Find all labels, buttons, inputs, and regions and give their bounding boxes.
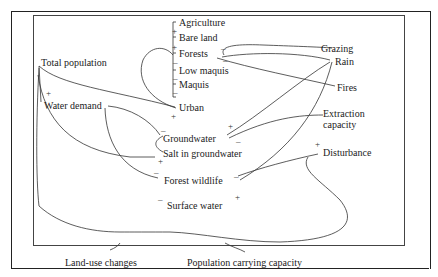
sign-minus: –: [154, 168, 159, 177]
sign-plus: +: [235, 193, 240, 202]
sign-minus: –: [173, 58, 178, 67]
node-salt-in-groundwater: Salt in groundwater: [163, 148, 242, 159]
sign-plus: +: [228, 122, 233, 131]
node-forests: Forests: [179, 48, 208, 59]
sign-minus: –: [161, 126, 166, 135]
sign-plus: +: [172, 27, 177, 36]
node-disturbance: Disturbance: [323, 147, 371, 158]
node-population-carrying-capacity: Population carrying capacity: [187, 257, 302, 268]
node-extraction-capacity-1: Extraction: [323, 108, 365, 119]
node-rain: Rain: [335, 56, 354, 67]
sign-minus: –: [234, 172, 239, 181]
sign-minus: –: [173, 88, 178, 97]
node-extraction-capacity-2: capacity: [323, 119, 356, 130]
sign-minus: –: [173, 74, 178, 83]
sign-plus: +: [315, 140, 320, 149]
node-agriculture: Agriculture: [179, 17, 225, 28]
sign-plus: +: [171, 112, 176, 121]
node-grazing: Grazing: [321, 43, 353, 54]
sign-minus: –: [223, 56, 228, 65]
node-bare-land: Bare land: [179, 32, 218, 43]
sign-minus: –: [158, 195, 163, 204]
connector-lines: [0, 0, 438, 277]
node-fires: Fires: [337, 82, 357, 93]
node-total-population: Total population: [41, 57, 107, 68]
node-maquis: Maquis: [179, 79, 209, 90]
sign-minus: –: [221, 44, 226, 53]
sign-plus: +: [46, 89, 51, 98]
node-land-use-changes: Land-use changes: [65, 257, 137, 268]
sign-minus: –: [236, 137, 241, 146]
sign-plus: +: [158, 157, 163, 166]
causal-loop-diagram: Agriculture Bare land Forests Low maquis…: [0, 0, 438, 277]
node-urban: Urban: [179, 102, 204, 113]
sign-plus: +: [172, 43, 177, 52]
node-forest-wildlife: Forest wildlife: [164, 175, 223, 186]
node-groundwater: Groundwater: [163, 133, 216, 144]
node-low-maquis: Low maquis: [179, 65, 229, 76]
node-water-demand: Water demand: [44, 100, 102, 111]
node-surface-water: Surface water: [167, 200, 222, 211]
